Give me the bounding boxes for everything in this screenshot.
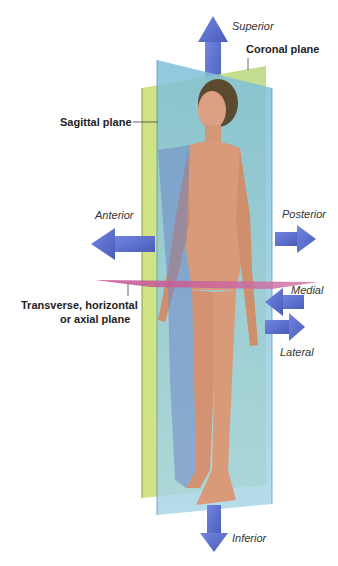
label-coronal-plane: Coronal plane: [246, 43, 319, 55]
label-inferior: Inferior: [232, 532, 266, 544]
label-posterior: Posterior: [282, 208, 326, 220]
label-anterior: Anterior: [95, 209, 134, 221]
inferior-arrow-icon: [200, 505, 228, 552]
label-transverse-plane-line2: or axial plane: [60, 313, 130, 325]
label-superior: Superior: [232, 20, 274, 32]
anatomical-planes-diagram: [0, 0, 338, 566]
label-transverse-plane-line1: Transverse, horizontal: [21, 299, 138, 311]
transverse-plane: [95, 280, 318, 289]
label-lateral: Lateral: [280, 346, 314, 358]
label-medial: Medial: [291, 284, 323, 296]
posterior-arrow-icon: [275, 225, 316, 253]
label-sagittal-plane: Sagittal plane: [60, 116, 132, 128]
